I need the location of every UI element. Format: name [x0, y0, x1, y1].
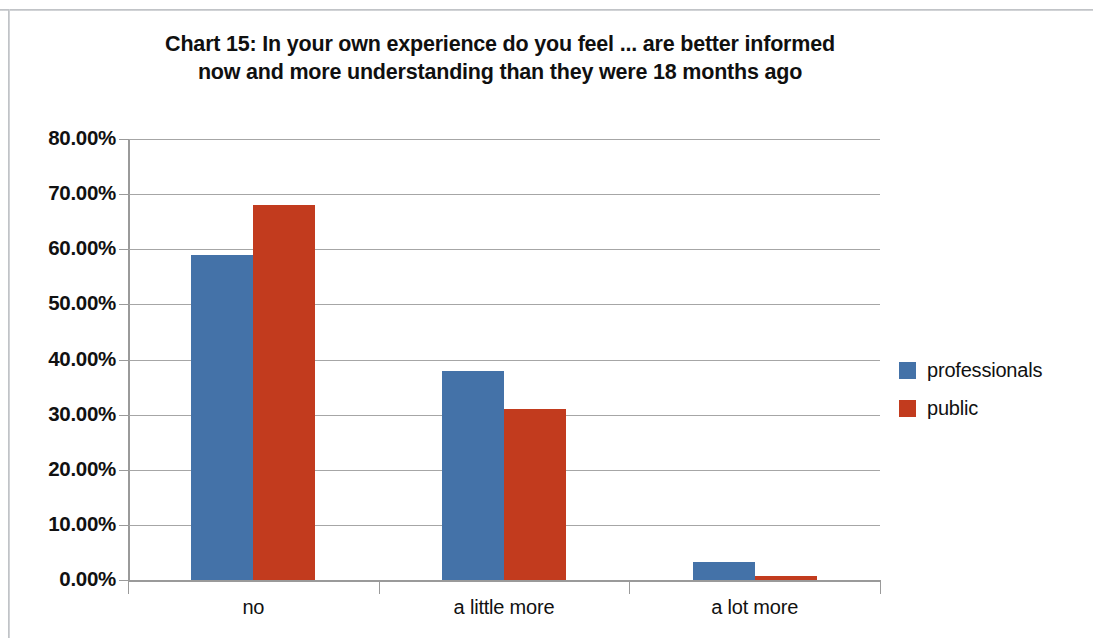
- legend-label: public: [927, 397, 978, 420]
- x-axis-tick-mark: [379, 580, 380, 594]
- chart-title: Chart 15: In your own experience do you …: [60, 30, 940, 86]
- y-axis-tick-label: 30.00%: [8, 402, 116, 426]
- bar-public-a-lot-more[interactable]: [755, 576, 817, 580]
- y-axis-tick-label: 40.00%: [8, 347, 116, 371]
- x-axis-tick-mark: [880, 580, 881, 594]
- y-axis-tick-label: 60.00%: [8, 236, 116, 260]
- x-axis-tick-label-a-little-more: a little more: [404, 596, 604, 619]
- legend-swatch-icon-professionals: [899, 362, 916, 379]
- x-axis-tick-mark: [128, 580, 129, 594]
- legend-label: professionals: [927, 359, 1042, 382]
- plot-area: [128, 139, 880, 580]
- chart-legend: professionalspublic: [899, 351, 1042, 427]
- legend-swatch-icon-public: [899, 400, 916, 417]
- figure-frame-top-border: [0, 9, 1093, 11]
- chart-title-line-2: now and more understanding than they wer…: [60, 58, 940, 86]
- x-axis-tick-label-a-lot-more: a lot more: [655, 596, 855, 619]
- y-axis-tick-label: 50.00%: [8, 291, 116, 315]
- x-axis-tick-label-no: no: [153, 596, 353, 619]
- bar-professionals-no[interactable]: [191, 255, 253, 580]
- legend-item-professionals[interactable]: professionals: [899, 351, 1042, 389]
- y-axis-tick-label: 70.00%: [8, 181, 116, 205]
- bar-public-no[interactable]: [253, 205, 315, 580]
- y-axis-tick-label: 0.00%: [8, 567, 116, 591]
- bar-public-a-little-more[interactable]: [504, 409, 566, 580]
- x-axis-line: [128, 580, 880, 582]
- figure-frame-left-border: [8, 9, 10, 638]
- x-axis-tick-mark: [629, 580, 630, 594]
- y-axis-tick-label: 10.00%: [8, 512, 116, 536]
- legend-item-public[interactable]: public: [899, 389, 1042, 427]
- y-axis-tick-label: 80.00%: [8, 126, 116, 150]
- bar-professionals-a-lot-more[interactable]: [693, 562, 755, 580]
- bar-professionals-a-little-more[interactable]: [442, 371, 504, 580]
- chart-title-line-1: Chart 15: In your own experience do you …: [60, 30, 940, 58]
- y-axis-tick-label: 20.00%: [8, 457, 116, 481]
